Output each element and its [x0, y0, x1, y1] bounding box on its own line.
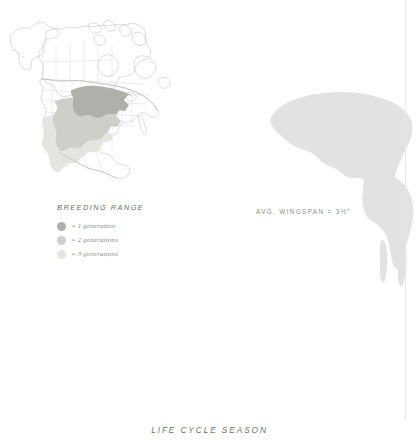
range-band-1-generation [71, 86, 146, 118]
breeding-range-map [0, 0, 200, 200]
legend-label-2-generations: = 2 generations [71, 236, 118, 244]
avg-wingspan-label: AVG. WINGSPAN = 3½" [256, 208, 351, 215]
butterfly-antenna-line [405, 0, 406, 420]
butterfly-tail-left [380, 240, 387, 283]
butterfly-svg [270, 0, 419, 300]
legend-label-1-generation: = 1 generation [71, 222, 115, 230]
legend-title: BREEDING RANGE [57, 203, 197, 212]
legend-swatch-1-generation [57, 222, 66, 231]
legend-item-2-generations: = 2 generations [57, 233, 197, 247]
legend-item-1-generation: = 1 generation [57, 219, 197, 233]
legend-swatch-2-generations [57, 236, 66, 245]
page-caption: LIFE CYCLE SEASON [0, 425, 419, 435]
legend-label-3-generations: = 3 generations [71, 250, 118, 258]
butterfly-forewing [270, 92, 412, 192]
legend-swatch-3-generations [57, 250, 66, 259]
infographic-page: BREEDING RANGE = 1 generation = 2 genera… [0, 0, 419, 442]
map-svg [0, 0, 200, 200]
butterfly-wing-silhouette [270, 0, 419, 300]
legend-item-3-generations: = 3 generations [57, 247, 197, 261]
butterfly-wing-notch [329, 171, 340, 181]
breeding-range-legend: BREEDING RANGE = 1 generation = 2 genera… [57, 203, 197, 261]
